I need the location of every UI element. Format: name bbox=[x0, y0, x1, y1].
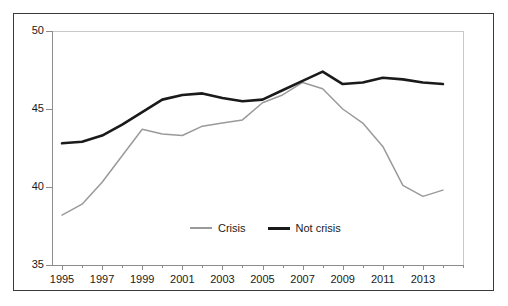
x-tick-label-2005: 2005 bbox=[243, 273, 283, 285]
x-tick-mark-2007 bbox=[303, 265, 304, 270]
chart-figure: 50454035 1995199719992001200320052007200… bbox=[0, 0, 508, 306]
x-tick-mark-1997 bbox=[102, 265, 103, 270]
x-tick-label-1995: 1995 bbox=[42, 273, 82, 285]
legend-item-crisis: Crisis bbox=[190, 222, 246, 234]
y-tick-label-35: 35 bbox=[4, 259, 44, 270]
x-tick-mark-2009 bbox=[343, 265, 344, 270]
x-tick-mark-1996 bbox=[82, 265, 83, 268]
x-tick-label-1999: 1999 bbox=[122, 273, 162, 285]
x-tick-mark-2015 bbox=[463, 265, 464, 268]
y-tick-mark-35 bbox=[46, 265, 52, 266]
x-tick-mark-2002 bbox=[202, 265, 203, 268]
x-tick-mark-2012 bbox=[403, 265, 404, 268]
x-tick-mark-2000 bbox=[162, 265, 163, 268]
x-tick-mark-1998 bbox=[122, 265, 123, 268]
x-tick-mark-1999 bbox=[142, 265, 143, 270]
x-tick-label-2007: 2007 bbox=[283, 273, 323, 285]
y-tick-label-wrap-50: 50 bbox=[0, 25, 44, 36]
x-tick-label-2003: 2003 bbox=[202, 273, 242, 285]
y-tick-mark-45 bbox=[46, 109, 52, 110]
y-tick-label-45: 45 bbox=[4, 103, 44, 114]
x-tick-mark-2001 bbox=[182, 265, 183, 270]
x-tick-label-2011: 2011 bbox=[363, 273, 403, 285]
x-tick-mark-2006 bbox=[283, 265, 284, 268]
y-tick-mark-50 bbox=[46, 31, 52, 32]
x-tick-mark-2011 bbox=[383, 265, 384, 270]
y-tick-label-wrap-40: 40 bbox=[0, 181, 44, 192]
y-tick-label-40: 40 bbox=[4, 181, 44, 192]
x-tick-mark-2013 bbox=[423, 265, 424, 270]
x-tick-mark-1995 bbox=[62, 265, 63, 270]
x-tick-label-1997: 1997 bbox=[82, 273, 122, 285]
legend-label-not-crisis: Not crisis bbox=[296, 222, 341, 234]
x-tick-mark-2005 bbox=[263, 265, 264, 270]
x-tick-mark-2014 bbox=[443, 265, 444, 268]
y-tick-label-50: 50 bbox=[4, 25, 44, 36]
not-crisis-line-swatch bbox=[268, 227, 290, 230]
plot-panel-right-border bbox=[463, 31, 464, 266]
figure-outer-frame bbox=[13, 13, 494, 291]
x-tick-mark-2010 bbox=[363, 265, 364, 268]
x-tick-label-2001: 2001 bbox=[162, 273, 202, 285]
y-axis-line bbox=[52, 31, 53, 266]
chart-legend: Crisis Not crisis bbox=[190, 222, 341, 234]
x-tick-mark-2004 bbox=[242, 265, 243, 268]
x-tick-label-2013: 2013 bbox=[403, 273, 443, 285]
x-tick-label-2009: 2009 bbox=[323, 273, 363, 285]
x-tick-mark-2008 bbox=[323, 265, 324, 268]
y-tick-mark-40 bbox=[46, 187, 52, 188]
y-tick-label-wrap-35: 35 bbox=[0, 259, 44, 270]
x-tick-mark-2003 bbox=[222, 265, 223, 270]
plot-panel-top-border bbox=[52, 31, 464, 32]
legend-item-not-crisis: Not crisis bbox=[268, 222, 341, 234]
legend-label-crisis: Crisis bbox=[218, 222, 246, 234]
crisis-line-swatch bbox=[190, 227, 212, 229]
y-tick-label-wrap-45: 45 bbox=[0, 103, 44, 114]
